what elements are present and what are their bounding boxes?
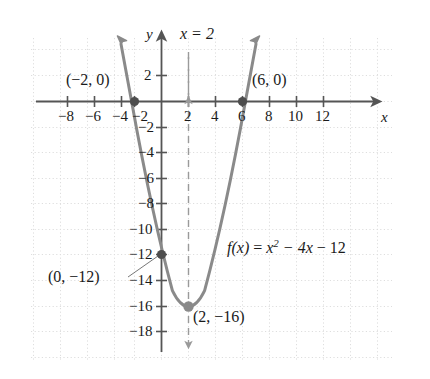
point-x-intercept-left [130,97,139,106]
y-axis-label: y [146,27,153,42]
y-axis [156,36,167,352]
x-axis [36,96,376,107]
equation-function-name: f(x) [227,239,249,256]
y-tick-label-minus-10: −10 [129,222,152,237]
x-axis-label: x [381,110,388,125]
y-tick-label-minus-8: −8 [138,196,154,211]
equation-equals-sign: = [253,239,262,256]
label-x-intercept-right: (6, 0) [252,72,287,88]
y-tick-label-minus-12: −12 [129,247,152,262]
x-tick-label-minus-8: −8 [58,109,74,124]
label-y-intercept: (0, −12) [48,269,100,285]
point-x-intercept-right [238,97,247,106]
x-tick-label-12: 12 [315,109,330,124]
label-vertex: (2, −16) [193,309,245,325]
x-tick-label-10: 10 [288,109,303,124]
point-y-intercept [157,250,166,259]
equation-term-constant: − 12 [317,239,346,256]
label-x-intercept-left: (−2, 0) [66,72,110,88]
y-tick-label-minus-16: −16 [129,299,152,314]
y-tick-label-minus-6: −6 [138,171,154,186]
axis-of-symmetry-label: x = 2 [180,26,214,42]
x-tick-label-6: 6 [238,109,246,124]
y-tick-label-minus-2: −2 [138,120,154,135]
x-tick-label-minus-6: −6 [85,109,101,124]
y-tick-label-minus-14: −14 [129,273,152,288]
x-tick-label-2: 2 [184,109,192,124]
function-equation-label: f(x) = x2 − 4x − 12 [227,238,346,256]
x-tick-label-4: 4 [211,109,219,124]
x-tick-label-minus-4: −4 [112,109,128,124]
x-tick-label-8: 8 [265,109,273,124]
y-tick-label-minus-4: −4 [138,145,154,160]
parabola-graph-figure: y x x = 2 −8 −6 −4 −2 2 4 6 8 10 12 2 −2… [0,0,430,379]
y-tick-label-minus-18: −18 [129,324,152,339]
equation-term-linear: − 4x [283,239,313,256]
y-tick-label-2: 2 [144,68,152,83]
